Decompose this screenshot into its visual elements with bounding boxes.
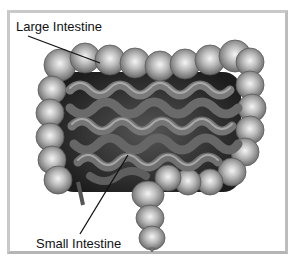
small-intestine-label: Small Intestine [36, 236, 121, 251]
large-intestine-label: Large Intestine [16, 19, 102, 34]
intestine-illustration [0, 0, 297, 265]
